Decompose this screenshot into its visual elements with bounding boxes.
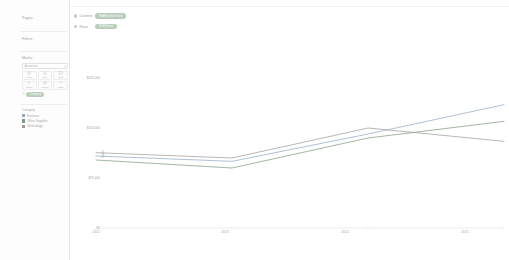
legend-item-office-supplies[interactable]: Office Supplies — [22, 119, 48, 123]
color-swatch-icon — [22, 92, 25, 97]
filters-shelf-label: Filters — [22, 37, 32, 41]
worksheet-area: Columns YEAR(Order Date) Rows SUM(Sales)… — [70, 0, 509, 260]
marks-button-size-label: Size — [43, 77, 48, 80]
marks-button-path-label: Path — [58, 87, 63, 90]
color-legend: Category Furniture Office Supplies Techn… — [22, 108, 48, 130]
legend-swatch-office-supplies — [22, 119, 25, 122]
legend-label-technology: Technology — [27, 124, 43, 128]
pill-sum-sales[interactable]: SUM(Sales) — [95, 24, 117, 29]
marks-button-tooltip-label: Tooltip — [41, 87, 48, 90]
marks-button-tooltip[interactable]: Tooltip — [38, 81, 53, 90]
left-panel: Pages Filters Marks Automatic Color — [0, 0, 70, 260]
chart-canvas[interactable]: $225,000 $150,000 $75,000 $0 Sales 2012 … — [70, 34, 509, 246]
mark-type-value: Automatic — [25, 64, 39, 68]
legend-label-furniture: Furniture — [27, 114, 39, 118]
rows-shelf-icon — [74, 25, 77, 28]
filters-shelf[interactable]: Filters — [22, 37, 32, 41]
legend-swatch-furniture — [22, 114, 25, 117]
marks-button-color[interactable]: Color — [22, 71, 37, 80]
legend-label-office-supplies: Office Supplies — [27, 119, 48, 123]
pill-year-order-date[interactable]: YEAR(Order Date) — [95, 13, 125, 18]
divider-filters — [20, 51, 68, 52]
columns-shelf-label: Columns — [79, 14, 95, 18]
rows-shelf[interactable]: Rows SUM(Sales) — [70, 23, 509, 31]
marks-button-path[interactable]: Path — [53, 81, 68, 90]
pages-shelf[interactable]: Pages — [22, 16, 33, 20]
marks-button-label[interactable]: Label — [53, 71, 68, 80]
legend-item-furniture[interactable]: Furniture — [22, 114, 48, 118]
rows-shelf-label: Rows — [79, 25, 95, 29]
divider-marks — [20, 104, 68, 105]
top-divider — [70, 6, 509, 7]
marks-pill-category[interactable]: Category — [26, 92, 44, 97]
marks-card: Marks Automatic Color — [22, 56, 68, 97]
worksheet-app: Pages Filters Marks Automatic Color — [0, 0, 509, 260]
marks-button-detail-label: Detail — [26, 87, 32, 90]
rows-shelf-well[interactable]: SUM(Sales) — [95, 24, 509, 29]
pages-shelf-label: Pages — [22, 16, 33, 20]
shelf-container: Columns YEAR(Order Date) Rows SUM(Sales) — [70, 12, 509, 33]
legend-title: Category — [22, 108, 48, 112]
marks-button-label-label: Label — [58, 77, 64, 80]
marks-button-color-label: Color — [26, 77, 32, 80]
columns-shelf[interactable]: Columns YEAR(Order Date) — [70, 12, 509, 20]
line-plot — [70, 34, 509, 246]
marks-button-detail[interactable]: Detail — [22, 81, 37, 90]
mark-type-dropdown[interactable]: Automatic — [22, 63, 68, 69]
marks-card-label: Marks — [22, 56, 68, 60]
legend-swatch-technology — [22, 125, 25, 128]
chevron-down-icon — [64, 66, 66, 67]
marks-encoding-buttons: Color Size Label — [22, 71, 68, 90]
marks-encoding-row: Category — [22, 92, 68, 97]
columns-shelf-well[interactable]: YEAR(Order Date) — [95, 13, 509, 18]
marks-button-size[interactable]: Size — [38, 71, 53, 80]
columns-shelf-icon — [74, 14, 77, 17]
legend-item-technology[interactable]: Technology — [22, 124, 48, 128]
divider-pages — [20, 31, 68, 32]
